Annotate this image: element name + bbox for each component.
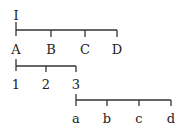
label-2: 2 bbox=[42, 78, 50, 91]
segment-row-2 bbox=[16, 59, 76, 72]
label-C: C bbox=[80, 43, 90, 56]
label-c: c bbox=[135, 112, 142, 125]
label-D: D bbox=[112, 43, 122, 56]
label-b: b bbox=[103, 112, 111, 125]
label-d: d bbox=[167, 112, 175, 125]
label-1: 1 bbox=[12, 78, 20, 91]
label-3: 3 bbox=[72, 78, 80, 91]
label-a: a bbox=[72, 112, 80, 125]
segment-row-3 bbox=[76, 94, 171, 106]
label-A: A bbox=[11, 43, 20, 56]
segment-row-1 bbox=[16, 22, 117, 37]
top-label: I bbox=[13, 9, 18, 22]
segment-diagram bbox=[0, 0, 185, 133]
label-B: B bbox=[46, 43, 56, 56]
